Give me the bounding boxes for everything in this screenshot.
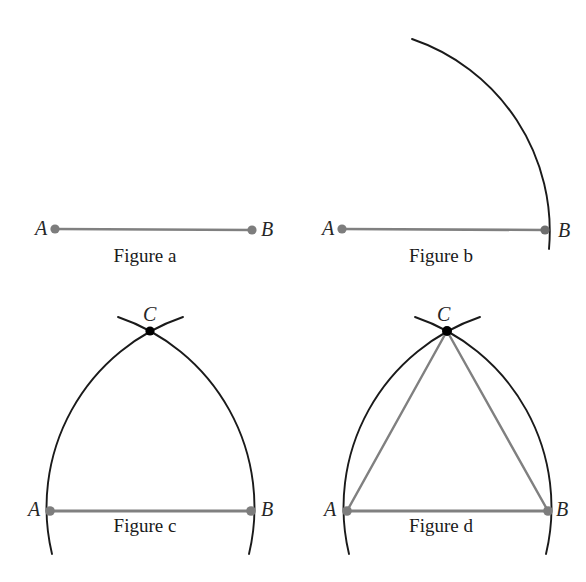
figure-d-drawing <box>296 290 586 582</box>
caption-figure-c: Figure c <box>0 515 290 537</box>
caption-figure-b: Figure b <box>296 245 586 267</box>
point-c-label: C <box>437 303 450 326</box>
segment-ab <box>55 229 252 230</box>
point-a-dot <box>50 224 59 233</box>
figure-canvas: A B Figure a A B Figure b <box>0 0 586 582</box>
point-a-label: A <box>322 217 334 240</box>
point-a-dot <box>337 224 346 233</box>
panel-figure-d: A B C Figure d <box>296 290 586 582</box>
point-a-label: A <box>35 217 47 240</box>
caption-figure-a: Figure a <box>0 245 290 267</box>
arc-centered-a <box>412 39 550 249</box>
panel-figure-b: A B Figure b <box>296 0 586 290</box>
point-c-dot <box>442 326 452 336</box>
point-b-label: B <box>558 219 570 242</box>
point-c-dot <box>145 326 154 335</box>
caption-figure-d: Figure d <box>296 515 586 537</box>
segment-ab <box>342 229 545 230</box>
point-b-dot <box>247 225 256 234</box>
panel-figure-c: A B C Figure c <box>0 290 290 582</box>
figure-c-drawing <box>0 290 290 582</box>
point-b-dot <box>540 225 549 234</box>
point-b-label: B <box>261 218 273 241</box>
point-c-label: C <box>143 303 156 326</box>
panel-figure-a: A B Figure a <box>0 0 290 290</box>
